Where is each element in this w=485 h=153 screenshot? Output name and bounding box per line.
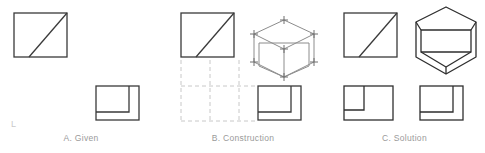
iso-solution-edge-lower-right	[446, 52, 471, 67]
technical-drawing-figure: L A. Given	[0, 0, 485, 153]
front-view-left-outline	[344, 86, 393, 120]
front-view-right-outline	[420, 86, 463, 120]
panel-c-front-view-left	[344, 86, 393, 120]
panel-b-construction: B. Construction	[162, 0, 324, 153]
panel-c-front-view-right	[420, 86, 463, 120]
front-view-outline	[96, 86, 139, 120]
iso-solution-edge-upper-right	[471, 22, 476, 30]
iso-solution-cut-face	[421, 30, 471, 52]
iso-box-top-face	[254, 20, 314, 49]
panel-b-front-view	[258, 86, 301, 120]
iso-solution-edge-lower-left	[421, 52, 446, 67]
panel-a-top-view	[14, 13, 67, 57]
panel-c-solution: C. Solution	[324, 0, 485, 153]
panel-c-isometric-solution	[416, 7, 476, 74]
iso-solution-edge-upper-left	[416, 22, 421, 30]
front-view-outline	[258, 86, 301, 120]
panel-b-caption: B. Construction	[162, 133, 324, 143]
top-view-outline	[181, 13, 234, 57]
panel-b-construction-grid	[181, 60, 258, 122]
panel-a-caption: A. Given	[0, 133, 162, 143]
panel-b-isometric-construction-box	[250, 16, 318, 81]
panel-c-top-view	[344, 13, 397, 57]
panel-c-caption: C. Solution	[324, 133, 485, 143]
iso-box-inner-reference-left	[259, 43, 284, 77]
top-view-outline	[14, 13, 67, 57]
corner-registration-mark: L	[11, 119, 16, 129]
panel-b-drawing	[162, 0, 324, 153]
iso-solution-outline	[416, 7, 476, 74]
panel-b-top-view	[181, 13, 234, 57]
panel-a-drawing	[0, 0, 162, 153]
panel-c-drawing	[324, 0, 485, 153]
top-view-outline	[344, 13, 397, 57]
panel-a-given: L A. Given	[0, 0, 162, 153]
panel-a-front-view	[96, 86, 139, 120]
